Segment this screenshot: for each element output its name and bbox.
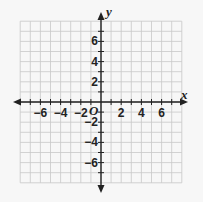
x-axis-label: x [180, 87, 188, 102]
y-tick-label: −6 [84, 156, 98, 170]
y-axis-down-arrow-icon [98, 185, 105, 193]
y-tick-label: 4 [91, 55, 98, 69]
x-tick-label: 4 [138, 106, 145, 120]
x-tick-label: −4 [54, 106, 68, 120]
y-axis-up-arrow-icon [98, 12, 105, 20]
x-tick-label: −6 [34, 106, 48, 120]
x-tick-label: 2 [118, 106, 125, 120]
origin-label: O [89, 103, 99, 118]
y-tick-label: 2 [91, 75, 98, 89]
y-tick-label: 6 [91, 34, 98, 48]
x-tick-label: 6 [158, 106, 165, 120]
coordinate-plane: −6−4−2246642−2−4−6 x y O [0, 0, 203, 202]
y-tick-label: −4 [84, 135, 98, 149]
x-axis-left-arrow-icon [13, 99, 21, 106]
y-axis-label: y [104, 4, 112, 19]
